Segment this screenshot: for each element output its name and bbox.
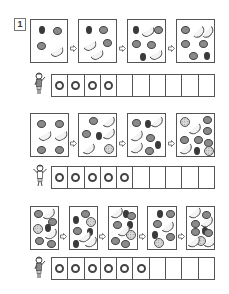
berry-icon — [204, 52, 210, 60]
answer-cell[interactable] — [166, 258, 182, 279]
melon-icon — [33, 224, 43, 234]
banana-icon — [103, 128, 117, 142]
answer-cell[interactable] — [182, 75, 198, 96]
problem-number: 1 — [14, 18, 26, 31]
arrow-right-icon — [119, 133, 126, 140]
arrow-right-icon — [168, 133, 175, 140]
answer-cell[interactable] — [133, 258, 149, 279]
apple-icon — [53, 27, 62, 35]
answer-cell[interactable] — [85, 258, 101, 279]
answer-cell[interactable] — [150, 167, 166, 188]
arrow-right-icon — [70, 38, 77, 45]
arrow-right-icon — [139, 226, 146, 233]
fruit-panel — [30, 206, 59, 250]
answer-cell[interactable] — [199, 75, 214, 96]
answer-cell[interactable] — [150, 75, 166, 96]
fruit-panel — [127, 19, 166, 63]
arrow-right-icon — [60, 226, 67, 233]
apple-icon — [121, 240, 130, 248]
child-figure-icon — [33, 256, 47, 280]
answer-grid — [51, 257, 215, 280]
circle-mark-icon — [137, 264, 146, 273]
berry-icon — [194, 147, 200, 155]
apple-icon — [147, 41, 156, 49]
answer-cell[interactable] — [85, 75, 101, 96]
answer-cell[interactable] — [117, 167, 133, 188]
banana-icon — [189, 123, 204, 137]
circle-mark-icon — [71, 264, 80, 273]
answer-cell[interactable] — [182, 167, 198, 188]
apple-icon — [37, 146, 46, 154]
answer-cell[interactable] — [166, 75, 182, 96]
circle-mark-icon — [120, 264, 129, 273]
banana-icon — [103, 116, 117, 130]
answer-cell[interactable] — [52, 258, 68, 279]
answer-cell[interactable] — [101, 258, 117, 279]
apple-icon — [103, 39, 112, 47]
banana-icon — [180, 143, 195, 157]
fruit-panel — [147, 206, 177, 250]
answer-cell[interactable] — [166, 167, 182, 188]
answer-cell[interactable] — [117, 258, 133, 279]
banana-icon — [38, 131, 53, 143]
apple-icon — [203, 127, 212, 135]
circle-mark-icon — [88, 81, 97, 90]
arrow-right-icon — [168, 38, 175, 45]
apple-icon — [99, 26, 108, 34]
answer-cell[interactable] — [68, 167, 84, 188]
fruit-panel — [108, 206, 138, 250]
apple-icon — [153, 220, 162, 228]
answer-cell[interactable] — [52, 167, 68, 188]
fruit-panel — [127, 113, 166, 157]
circle-mark-icon — [71, 173, 80, 182]
apple-icon — [145, 147, 154, 155]
answer-cell[interactable] — [52, 75, 68, 96]
circle-mark-icon — [55, 81, 64, 90]
berry-icon — [39, 26, 45, 34]
berry-icon — [86, 26, 92, 34]
child-figure-icon — [33, 72, 47, 96]
child-figure-icon — [32, 164, 46, 188]
melon-icon — [126, 230, 136, 240]
berry-icon — [133, 26, 139, 34]
circle-mark-icon — [104, 264, 113, 273]
circle-mark-icon — [88, 264, 97, 273]
banana-icon — [50, 47, 65, 59]
apple-icon — [166, 210, 175, 218]
apple-icon — [89, 117, 98, 125]
apple-icon — [180, 136, 189, 144]
apple-icon — [127, 212, 136, 220]
arrow-right-icon — [70, 133, 77, 140]
answer-cell[interactable] — [133, 75, 149, 96]
berry-icon — [140, 53, 146, 61]
answer-cell[interactable] — [150, 258, 166, 279]
answer-cell[interactable] — [68, 258, 84, 279]
answer-cell[interactable] — [101, 75, 117, 96]
fruit-panel — [176, 19, 215, 63]
apple-icon — [166, 233, 175, 241]
apple-icon — [113, 221, 122, 229]
melon-icon — [180, 117, 190, 127]
apple-icon — [189, 52, 198, 60]
apple-icon — [191, 228, 200, 236]
answer-cell[interactable] — [117, 75, 133, 96]
answer-cell[interactable] — [101, 167, 117, 188]
berry-icon — [155, 141, 161, 149]
answer-cell[interactable] — [68, 75, 84, 96]
circle-mark-icon — [55, 173, 64, 182]
answer-cell[interactable] — [85, 167, 101, 188]
apple-icon — [37, 42, 46, 50]
melon-icon — [104, 144, 114, 154]
apple-icon — [55, 120, 64, 128]
fruit-panel — [30, 19, 68, 63]
fruit-panel — [78, 19, 117, 63]
answer-cell[interactable] — [199, 167, 214, 188]
apple-icon — [132, 40, 141, 48]
answer-cell[interactable] — [133, 167, 149, 188]
apple-icon — [132, 119, 141, 127]
apple-icon — [194, 136, 203, 144]
melon-icon — [86, 217, 96, 227]
apple-icon — [191, 220, 200, 228]
answer-cell[interactable] — [182, 258, 198, 279]
answer-cell[interactable] — [199, 258, 214, 279]
